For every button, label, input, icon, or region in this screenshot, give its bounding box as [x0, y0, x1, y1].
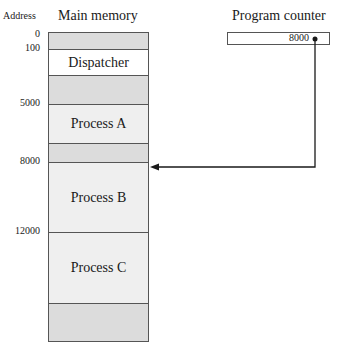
- arrowhead-icon: [150, 164, 159, 171]
- pointer-line: [158, 39, 315, 167]
- pointer-arrow: [0, 0, 338, 355]
